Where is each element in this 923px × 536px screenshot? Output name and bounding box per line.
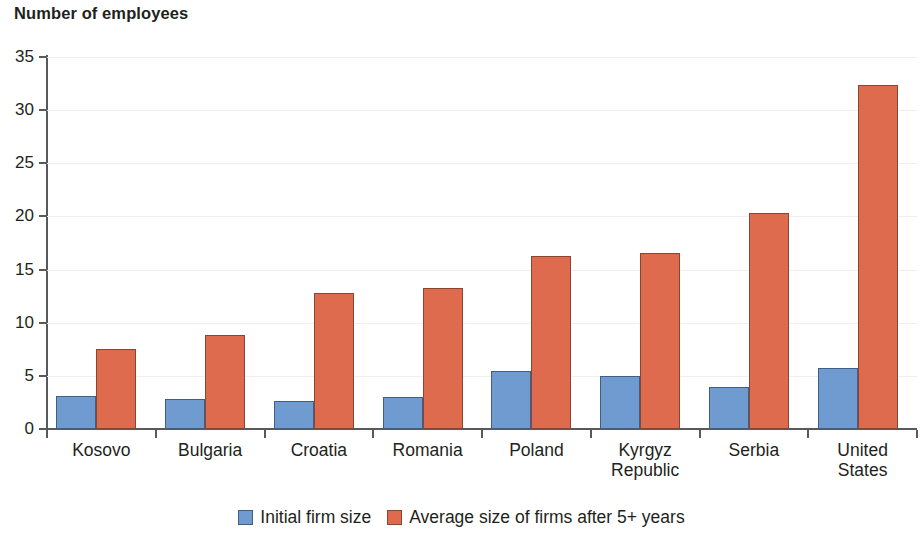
y-axis-tick (39, 269, 47, 271)
bar-initial-firm-size (383, 397, 423, 429)
y-axis-tick (39, 215, 47, 217)
x-axis-category-label: Serbia (700, 441, 809, 461)
bar-initial-firm-size (818, 368, 858, 429)
x-axis-category-label: Bulgaria (156, 441, 265, 461)
y-axis-label: 0 (0, 420, 34, 437)
y-axis-label: 15 (0, 261, 34, 278)
bar-initial-firm-size (56, 396, 96, 429)
bar-avg-size-after-5-years (858, 85, 898, 429)
legend-item: Average size of firms after 5+ years (387, 507, 684, 528)
bar-avg-size-after-5-years (640, 253, 680, 429)
bar-avg-size-after-5-years (531, 256, 571, 429)
bar-chart: Number of employees 05101520253035 Kosov… (0, 0, 923, 536)
x-axis-tick (372, 430, 374, 438)
y-axis-label: 35 (0, 48, 34, 65)
y-axis-tick (39, 56, 47, 58)
chart-legend: Initial firm sizeAverage size of firms a… (0, 507, 923, 528)
bar-initial-firm-size (709, 387, 749, 430)
bar-initial-firm-size (165, 399, 205, 429)
bar-avg-size-after-5-years (314, 293, 354, 429)
plot-area (47, 57, 917, 429)
bar-avg-size-after-5-years (749, 213, 789, 429)
gridline (47, 110, 917, 111)
x-axis-category-label: UnitedStates (808, 441, 917, 480)
bar-avg-size-after-5-years (205, 335, 245, 429)
bar-initial-firm-size (274, 401, 314, 429)
x-axis-category-label: Romania (373, 441, 482, 461)
bar-avg-size-after-5-years (96, 349, 136, 429)
legend-label: Initial firm size (260, 507, 371, 528)
chart-title: Number of employees (14, 4, 188, 23)
x-axis-tick (916, 430, 918, 438)
legend-label: Average size of firms after 5+ years (409, 507, 684, 528)
y-axis-label: 10 (0, 314, 34, 331)
gridline (47, 57, 917, 58)
y-axis-label: 30 (0, 101, 34, 118)
legend-item: Initial firm size (238, 507, 371, 528)
y-axis-tick (39, 162, 47, 164)
y-axis-label: 25 (0, 154, 34, 171)
x-axis-tick (264, 430, 266, 438)
gridline (47, 163, 917, 164)
y-axis-tick (39, 375, 47, 377)
x-axis-tick (807, 430, 809, 438)
bar-initial-firm-size (491, 371, 531, 429)
legend-swatch-initial-icon (238, 510, 253, 525)
legend-swatch-after-icon (387, 510, 402, 525)
y-axis-tick (39, 322, 47, 324)
x-axis-category-label: Croatia (265, 441, 374, 461)
x-axis-category-label: Poland (482, 441, 591, 461)
x-axis-tick (481, 430, 483, 438)
x-axis-category-label: KyrgyzRepublic (591, 441, 700, 480)
y-axis-label: 5 (0, 367, 34, 384)
x-axis-tick (46, 430, 48, 438)
bar-avg-size-after-5-years (423, 288, 463, 429)
y-axis-tick (39, 109, 47, 111)
x-axis-tick (590, 430, 592, 438)
x-axis-tick (155, 430, 157, 438)
y-axis-label: 20 (0, 207, 34, 224)
x-axis-tick (699, 430, 701, 438)
x-axis-category-label: Kosovo (47, 441, 156, 461)
bar-initial-firm-size (600, 376, 640, 429)
